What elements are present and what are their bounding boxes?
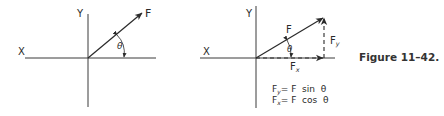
right-theta-label: θ [287, 44, 293, 54]
left-f-label: F [145, 7, 151, 20]
fx-label: Fx [290, 61, 300, 74]
figure-caption: Figure 11–42. [359, 51, 439, 63]
left-x-label: X [18, 46, 25, 57]
figure-11-42: X Y F θ X Y F θ Fx Fy Fy= F sin θ [0, 0, 444, 116]
left-diagram: X Y F θ [18, 7, 156, 107]
right-diagram: X Y F θ Fx Fy Fy= F sin θ Fx= F cos θ [200, 6, 340, 108]
equation-fx: Fx= F cos θ [272, 95, 329, 106]
right-y-label: Y [245, 8, 253, 19]
left-theta-label: θ [117, 41, 123, 51]
right-f-label: F [286, 24, 292, 35]
right-x-label: X [203, 46, 210, 57]
left-y-label: Y [76, 8, 84, 19]
fy-label: Fy [330, 35, 340, 48]
left-force-vector [88, 13, 142, 58]
